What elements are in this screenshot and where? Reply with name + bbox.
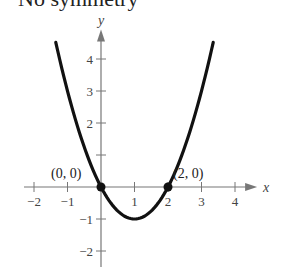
y-tick-label: −2 — [79, 244, 93, 259]
x-tick-label: 2 — [165, 194, 172, 209]
x-tick-label: −1 — [61, 194, 75, 209]
y-axis-arrow-icon — [97, 29, 105, 41]
x-tick-label: −2 — [27, 194, 41, 209]
y-tick-label: 4 — [87, 52, 94, 67]
intercept-label: (0, 0) — [51, 166, 82, 182]
x-axis-label: x — [262, 180, 270, 195]
y-tick-label: 3 — [87, 84, 94, 99]
intercept-point — [164, 183, 173, 192]
y-tick-label: −1 — [79, 212, 93, 227]
x-tick-label: 4 — [232, 194, 239, 209]
x-tick-label: 3 — [198, 194, 205, 209]
intercept-label: (2, 0) — [173, 166, 204, 182]
parabola-plot: xy−2−11234−2−1234(0, 0)(2, 0) — [0, 0, 285, 276]
parabola-curve — [56, 42, 213, 219]
y-tick-label: 2 — [87, 116, 94, 131]
x-tick-label: 1 — [131, 194, 138, 209]
x-axis-arrow-icon — [245, 183, 257, 191]
y-axis-label: y — [96, 13, 105, 28]
intercept-point — [97, 183, 106, 192]
